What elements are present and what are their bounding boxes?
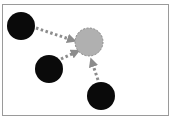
arrow-3 xyxy=(92,62,98,80)
target-node xyxy=(75,28,103,56)
arrow-1 xyxy=(36,28,72,40)
source-node-3 xyxy=(87,82,115,110)
source-node-1 xyxy=(7,12,35,40)
diagram-canvas xyxy=(0,0,173,120)
source-node-2 xyxy=(35,55,63,83)
arrow-2 xyxy=(61,52,76,59)
